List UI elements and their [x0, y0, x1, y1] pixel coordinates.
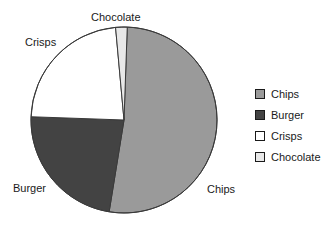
legend-swatch-burger	[255, 110, 265, 120]
legend-label-chocolate: Chocolate	[271, 151, 321, 163]
legend-swatch-chips	[255, 89, 265, 99]
legend-item-crisps: Crisps	[255, 126, 335, 145]
slice-label-chips: Chips	[207, 183, 235, 195]
legend-item-chocolate: Chocolate	[255, 147, 335, 166]
chart-legend: Chips Burger Crisps Chocolate	[255, 84, 335, 168]
slice-label-crisps: Crisps	[25, 36, 56, 48]
legend-label-chips: Chips	[271, 88, 299, 100]
pie-slices	[31, 27, 217, 213]
legend-label-burger: Burger	[271, 109, 304, 121]
pie-slice-burger	[31, 117, 124, 212]
legend-item-burger: Burger	[255, 105, 335, 124]
pie-chart-figure: Chocolate Crisps Burger Chips Chips Burg…	[0, 0, 335, 235]
slice-label-chocolate: Chocolate	[91, 11, 141, 23]
legend-swatch-chocolate	[255, 152, 265, 162]
slice-label-burger: Burger	[13, 182, 46, 194]
legend-item-chips: Chips	[255, 84, 335, 103]
pie-plot-area: Chocolate Crisps Burger Chips	[0, 0, 245, 235]
legend-label-crisps: Crisps	[271, 130, 302, 142]
legend-swatch-crisps	[255, 131, 265, 141]
